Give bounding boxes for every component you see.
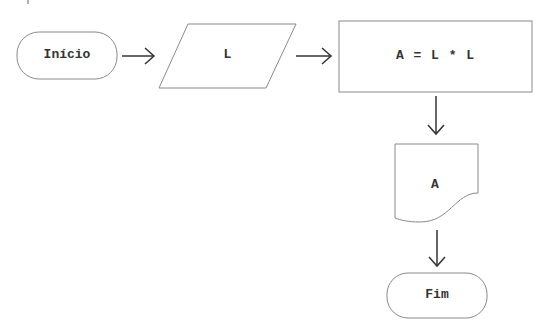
process-label: A = L * L	[339, 48, 532, 63]
output-label: A	[395, 177, 478, 192]
end-label: Fim	[387, 287, 487, 302]
arrow-down-icon	[428, 96, 444, 134]
arrow-right-icon	[122, 48, 154, 64]
start-label: Início	[17, 47, 117, 62]
input-label: L	[175, 47, 280, 62]
arrow-down-icon	[429, 230, 445, 266]
arrow-right-icon	[296, 48, 331, 64]
